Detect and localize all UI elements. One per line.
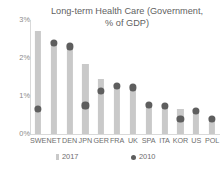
x-tick-label: UK	[125, 136, 141, 145]
y-tick-mark	[26, 134, 30, 135]
bar-group[interactable]	[78, 20, 94, 134]
bar-group[interactable]	[141, 20, 157, 134]
legend-label: 2010	[139, 152, 155, 162]
y-axis-ticks: 0%1%2%3%	[0, 0, 30, 171]
bar-group[interactable]	[30, 20, 46, 134]
x-tick-label: JPN	[78, 136, 94, 145]
x-tick-label: KOR	[173, 136, 189, 145]
legend-item-2017[interactable]: 2017	[56, 152, 78, 162]
x-tick-label: ITA	[157, 136, 173, 145]
bar-group[interactable]	[173, 20, 189, 134]
dot-swatch-icon	[131, 155, 136, 160]
bar-2017[interactable]	[82, 64, 88, 134]
x-tick-label: DEN	[62, 136, 78, 145]
bar-swatch-icon	[56, 154, 59, 160]
bar-group[interactable]	[188, 20, 204, 134]
plot-area	[30, 20, 220, 134]
y-tick-mark	[26, 58, 30, 59]
bar-group[interactable]	[125, 20, 141, 134]
x-tick-label: GER	[93, 136, 109, 145]
bar-2017[interactable]	[130, 87, 136, 135]
bar-group[interactable]	[109, 20, 125, 134]
bar-group[interactable]	[62, 20, 78, 134]
bar-2017[interactable]	[161, 106, 167, 135]
bar-group[interactable]	[46, 20, 62, 134]
chart-legend: 20172010	[0, 152, 222, 166]
bar-2017[interactable]	[146, 104, 152, 134]
x-tick-label: US	[188, 136, 204, 145]
bar-group[interactable]	[93, 20, 109, 134]
x-tick-label: POL	[204, 136, 220, 145]
legend-item-2010[interactable]: 2010	[131, 152, 155, 162]
y-tick-mark	[26, 20, 30, 21]
x-tick-label: SPA	[141, 136, 157, 145]
y-tick-mark	[26, 96, 30, 97]
bar-2017[interactable]	[51, 41, 57, 134]
bar-group[interactable]	[157, 20, 173, 134]
legend-label: 2017	[62, 152, 78, 162]
bar-2017[interactable]	[35, 31, 41, 134]
chart-container: Long-term Health Care (Government, % of …	[0, 0, 222, 171]
x-axis-line	[30, 134, 220, 135]
bar-2017[interactable]	[66, 45, 72, 134]
x-tick-label: SWE	[30, 136, 46, 145]
bar-2017[interactable]	[114, 85, 120, 134]
bar-group[interactable]	[204, 20, 220, 134]
x-tick-label: NET	[46, 136, 62, 145]
x-tick-label: FRA	[109, 136, 125, 145]
